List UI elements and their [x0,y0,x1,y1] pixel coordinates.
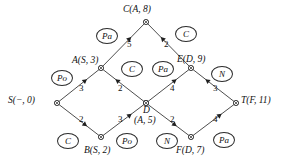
node-label-A: A(S, 3) [72,56,98,66]
packet-marker-c-6: C [57,133,79,149]
packet-marker-n-5: N [211,66,233,82]
edge-weight-T-E: 3 [213,83,218,93]
edge-weight-D-F: 2 [170,114,175,124]
node-label-F: F(D, 7) [176,146,205,156]
edge-weight-A-C: 5 [127,39,132,49]
packet-marker-po-7: Po [116,133,138,149]
node-marker-S[interactable] [54,100,59,105]
node-label-S: S(−, 0) [8,96,35,106]
arrowhead-T-E [205,79,210,84]
node-marker-F[interactable] [188,134,193,139]
packet-marker-c-3: C [121,61,143,77]
node-marker-B[interactable] [98,134,103,139]
node-marker-C[interactable] [143,19,148,24]
arrowheads-group [82,37,222,126]
node-label-C: C(A, 8) [123,5,151,15]
packet-marker-pa-4: Pa [152,61,174,77]
network-routing-diagram: S(−, 0)A(S, 3)B(S, 2)C(A, 8)D(A, 5)E(D, … [0,0,296,166]
edge-weight-C-E: 2 [164,39,169,49]
packet-marker-pa-1: Pa [96,28,118,44]
edge-weight-D-E: 4 [170,83,175,93]
node-label-D2: (A, 5) [134,116,156,126]
edge-weight-F-T: 4 [213,114,218,124]
node-marker-E[interactable] [188,65,193,70]
arrowhead-B-D [126,114,131,119]
packet-marker-po-0: Po [51,70,73,86]
node-label-B: B(S, 2) [84,146,110,156]
edge-weight-S-B: 2 [79,114,84,124]
edge-weight-S-A: 3 [79,83,84,93]
node-label-E: E(D, 9) [177,55,206,65]
edge-weight-D-A: 2 [118,83,123,93]
packet-marker-n-8: N [156,133,178,149]
packet-marker-pa-9: Pa [213,132,235,148]
node-label-T: T(F, 11) [241,96,271,106]
graph-edges-layer [0,0,296,166]
packet-marker-c-2: C [175,26,197,42]
edge-weight-B-D: 3 [118,114,123,124]
node-marker-T[interactable] [233,100,238,105]
node-marker-A[interactable] [98,65,103,70]
